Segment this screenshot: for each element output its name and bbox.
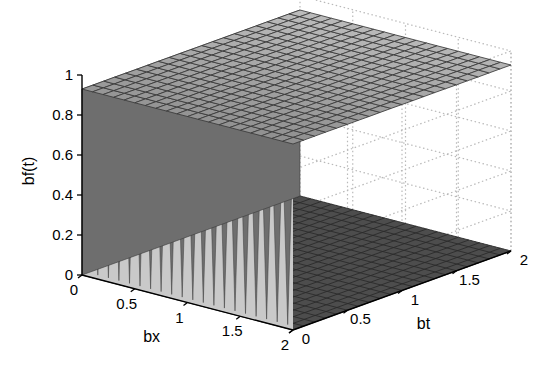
surface-plot-svg: 00.20.40.60.81bf(t)00.511.52bx00.511.52b… xyxy=(0,0,534,383)
z-tick-label-2: 0.4 xyxy=(52,186,73,203)
z-tick-label-1: 0.2 xyxy=(52,226,73,243)
figure-canvas: 00.20.40.60.81bf(t)00.511.52bx00.511.52b… xyxy=(0,0,534,383)
z-tick-label-3: 0.6 xyxy=(52,146,73,163)
z-tick-label-5: 1 xyxy=(65,66,73,83)
y-tick-label-1: 0.5 xyxy=(350,310,371,327)
y-tick-label-2: 1 xyxy=(411,291,419,308)
y-tick-label-3: 1.5 xyxy=(459,271,480,288)
y-axis-title: bt xyxy=(417,315,431,332)
z-axis-title: bf(t) xyxy=(20,157,37,185)
x-tick-label-1: 0.5 xyxy=(116,295,137,312)
x-tick-label-0: 0 xyxy=(70,281,78,298)
x-axis-title: bx xyxy=(143,328,160,345)
y-tick-label-4: 2 xyxy=(520,251,528,268)
y-tick-label-0: 0 xyxy=(302,330,310,347)
x-tick-label-4: 2 xyxy=(281,336,289,353)
x-tick-label-3: 1.5 xyxy=(222,322,243,339)
x-tick-label-2: 1 xyxy=(175,309,183,326)
z-tick-label-4: 0.8 xyxy=(52,106,73,123)
